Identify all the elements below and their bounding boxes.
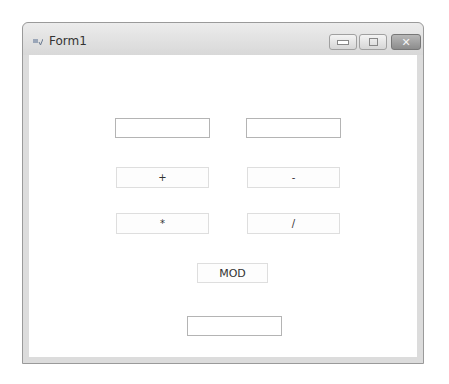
close-icon: ✕ [401, 37, 410, 48]
mod-button[interactable]: MOD [197, 263, 268, 283]
multiply-button[interactable]: * [116, 213, 209, 234]
divide-button[interactable]: / [247, 213, 340, 234]
window-title: Form1 [49, 34, 87, 48]
minimize-button[interactable] [329, 34, 357, 50]
maximize-icon [369, 38, 378, 46]
title-bar[interactable]: Form1 ✕ [23, 23, 423, 55]
subtract-button[interactable]: - [247, 167, 340, 188]
second-number-input[interactable] [246, 118, 341, 138]
result-output[interactable] [187, 316, 282, 336]
client-area: + - * / MOD [29, 55, 417, 357]
form-icon [33, 38, 43, 46]
minimize-icon [337, 40, 349, 45]
first-number-input[interactable] [115, 118, 210, 138]
maximize-button[interactable] [359, 34, 387, 50]
form1-window: Form1 ✕ + - * / MOD [22, 22, 424, 364]
close-button[interactable]: ✕ [391, 34, 421, 50]
add-button[interactable]: + [116, 167, 209, 188]
